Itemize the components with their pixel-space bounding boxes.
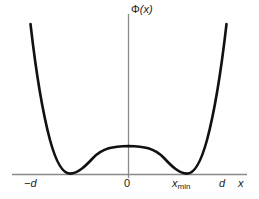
y-axis-label: Φ(x) — [131, 4, 153, 15]
figure-double-well-potential: Φ(x) −d 0 xmin d x — [0, 0, 259, 199]
x-tick-label-xmin-subscript: min — [178, 182, 191, 191]
x-tick-label-d: d — [219, 178, 225, 189]
x-tick-label-xmin: xmin — [172, 178, 190, 189]
x-tick-label-zero: 0 — [124, 178, 130, 189]
x-axis-label: x — [238, 178, 244, 189]
x-tick-label-neg-d: −d — [24, 178, 37, 189]
plot-canvas — [0, 0, 259, 199]
y-axis-label-arg: (x) — [140, 3, 153, 15]
x-tick-label-xmin-base: x — [172, 177, 178, 189]
y-axis-label-phi: Φ — [131, 3, 140, 15]
